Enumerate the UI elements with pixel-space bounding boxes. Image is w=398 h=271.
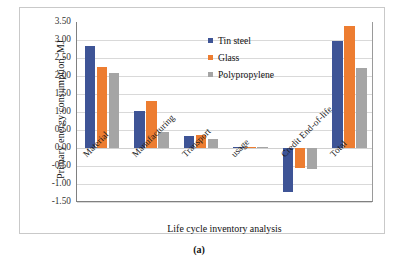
bar <box>208 139 219 148</box>
legend-item: Glass <box>208 49 328 65</box>
y-tick-label: 1.50 <box>41 89 71 98</box>
y-tick-label: 3.00 <box>41 35 71 44</box>
bar <box>85 46 96 148</box>
y-tick-label: 2.50 <box>41 53 71 62</box>
chart-legend: Tin steelGlassPolypropylene <box>208 32 328 83</box>
gridline <box>77 202 372 203</box>
bar <box>307 148 318 169</box>
y-tick-label: -1.50 <box>41 197 71 206</box>
legend-label: Glass <box>218 52 239 63</box>
legend-item: Polypropylene <box>208 66 328 82</box>
y-tick-label: 0.00 <box>41 143 71 152</box>
legend-item: Tin steel <box>208 32 328 48</box>
legend-swatch-icon <box>208 38 213 43</box>
legend-label: Tin steel <box>218 35 251 46</box>
y-tick-label: 0.50 <box>41 125 71 134</box>
y-tick-label: 2.00 <box>41 71 71 80</box>
bar <box>332 41 343 148</box>
y-tick-label: -1.00 <box>41 179 71 188</box>
figure-container: Primary energy consumption, MJ 3.503.002… <box>0 0 398 271</box>
x-axis-title: Life cycle inventory analysis <box>76 223 373 234</box>
bar <box>356 68 367 148</box>
y-tick-label: 1.00 <box>41 107 71 116</box>
bar <box>344 26 355 148</box>
legend-label: Polypropylene <box>218 69 274 80</box>
bar <box>295 148 306 168</box>
y-axis-tick-labels: 3.503.002.502.001.501.000.500.00-0.50-1.… <box>41 8 71 235</box>
legend-swatch-icon <box>208 72 213 77</box>
bar <box>257 147 268 148</box>
legend-swatch-icon <box>208 55 213 60</box>
figure-caption: (a) <box>0 244 398 255</box>
y-tick-label: -0.50 <box>41 161 71 170</box>
chart-frame: Primary energy consumption, MJ 3.503.002… <box>19 7 385 234</box>
y-tick-label: 3.50 <box>41 17 71 26</box>
